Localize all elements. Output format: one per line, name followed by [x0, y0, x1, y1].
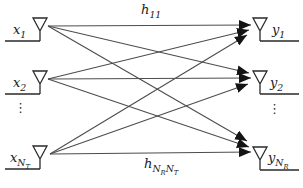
channel-line-x2-y1: [48, 30, 249, 79]
channel-line-x3-y3: [50, 152, 251, 154]
rx3-label: yNR: [268, 151, 289, 170]
h11-gain-label: h11: [141, 3, 161, 22]
tx3-label: xNT: [10, 151, 30, 170]
hNRNT-gain-label: hNRNT: [144, 157, 178, 176]
tx2-label: x2: [13, 76, 26, 95]
channel-line-x1-y1: [48, 25, 251, 26]
mimo-channel-diagram: x1 x2 xNT y1 y2 yNR h11 hNRNT ⋮ ⋮: [0, 0, 303, 188]
rx1-label: y1: [272, 23, 285, 42]
tx-ellipsis: ⋮: [14, 101, 27, 114]
tx1-label: x1: [13, 23, 26, 42]
channel-line-x1-y2: [48, 26, 249, 73]
rx2-label: y2: [270, 76, 283, 95]
channel-line-x2-y2: [48, 78, 251, 79]
rx-ellipsis: ⋮: [268, 102, 281, 115]
channel-line-x1-y3: [48, 26, 247, 141]
